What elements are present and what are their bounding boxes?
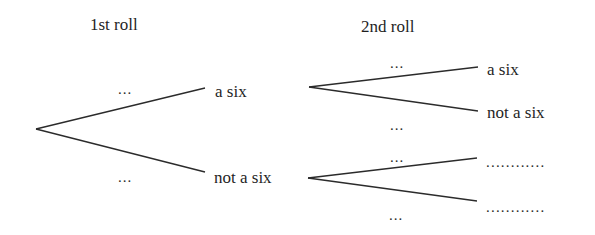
prob-second-six-not-six: ...	[390, 118, 404, 133]
outcome-second-six-six: a six	[487, 61, 519, 78]
outcome-second-not-six-a-blank: ............	[486, 155, 545, 170]
outcome-second-six-not-six: not a six	[487, 104, 545, 121]
branch-second-not-six-b	[308, 178, 477, 201]
outcome-first-six: a six	[215, 83, 247, 100]
tree-diagram: 1st roll 2nd roll ... ... a six not a si…	[0, 0, 595, 235]
heading-first-roll: 1st roll	[90, 16, 138, 33]
prob-second-not-six-b: ...	[389, 208, 403, 223]
prob-first-six: ...	[118, 82, 132, 97]
branch-second-six-not-six	[309, 87, 478, 111]
outcome-second-not-six-b-blank: ............	[486, 200, 545, 215]
prob-second-not-six-a: ...	[390, 150, 404, 165]
prob-second-six-six: ...	[390, 56, 404, 71]
outcome-first-not-six: not a six	[214, 169, 272, 186]
prob-first-not-six: ...	[118, 170, 132, 185]
heading-second-roll: 2nd roll	[361, 18, 414, 35]
branch-first-not-six	[36, 129, 205, 172]
